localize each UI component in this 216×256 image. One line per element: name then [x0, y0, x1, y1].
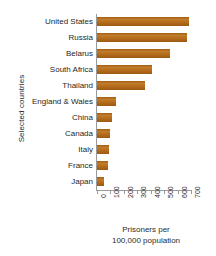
bar-row: [97, 126, 191, 142]
x-axis-tick: [110, 190, 111, 194]
x-axis-tick: [151, 190, 152, 194]
bar-row: [97, 46, 191, 62]
x-axis-tick: [178, 190, 179, 194]
x-axis-title-line2: 100,000 population: [96, 235, 196, 246]
bar-chart: Selected countries United States Russia …: [0, 0, 216, 256]
x-axis-ticks: 0100200300400500600700: [97, 190, 192, 195]
bar: [97, 145, 109, 154]
bar: [97, 97, 116, 106]
category-label: Russia: [1, 30, 93, 46]
bar-row: [97, 30, 191, 46]
bar: [97, 161, 108, 170]
x-axis-tick-label: 500: [167, 186, 174, 198]
x-axis-tick-label: 300: [140, 186, 147, 198]
bar-row: [97, 94, 191, 110]
category-label: Thailand: [1, 78, 93, 94]
category-label: South Africa: [1, 62, 93, 78]
category-label: Canada: [1, 126, 93, 142]
category-label: France: [1, 158, 93, 174]
category-label: Japan: [1, 174, 93, 190]
x-axis-tick-label: 700: [194, 186, 201, 198]
bar-row: [97, 142, 191, 158]
bar-row: [97, 14, 191, 30]
bar-row: [97, 62, 191, 78]
x-axis-tick: [164, 190, 165, 194]
bar: [97, 129, 110, 138]
x-axis-tick-label: 0: [100, 194, 107, 198]
x-axis-tick: [137, 190, 138, 194]
x-axis-tick-label: 400: [154, 186, 161, 198]
bar-row: [97, 110, 191, 126]
category-label: Belarus: [1, 46, 93, 62]
category-label: England & Wales: [1, 94, 93, 110]
bar: [97, 17, 189, 26]
bar-row: [97, 78, 191, 94]
x-axis-title: Prisoners per 100,000 population: [96, 224, 196, 246]
x-axis-tick: [124, 190, 125, 194]
category-label: United States: [1, 14, 93, 30]
x-axis-tick-label: 100: [113, 186, 120, 198]
plot-area: [97, 14, 191, 190]
bar: [97, 113, 112, 122]
bar: [97, 65, 152, 74]
category-axis-labels: United States Russia Belarus South Afric…: [0, 14, 93, 190]
bar: [97, 49, 170, 58]
x-axis-tick: [191, 190, 192, 194]
x-axis-tick-label: 200: [127, 186, 134, 198]
category-label: Italy: [1, 142, 93, 158]
category-label: China: [1, 110, 93, 126]
x-axis-title-line1: Prisoners per: [96, 224, 196, 235]
bar: [97, 81, 145, 90]
x-axis-tick-label: 600: [181, 186, 188, 198]
bar: [97, 33, 187, 42]
bar-row: [97, 158, 191, 174]
bar: [97, 177, 104, 186]
x-axis-tick: [97, 190, 98, 194]
